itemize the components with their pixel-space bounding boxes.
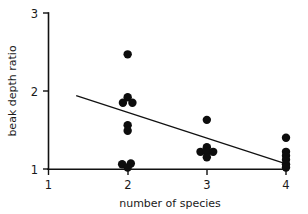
y-tick-label-2: 2 [31,85,38,99]
y-tick-labels: 3 2 1 [31,7,38,177]
data-point [119,99,127,107]
data-points-layer [118,50,290,172]
data-point [209,148,217,156]
x-axis-title: number of species [119,197,221,210]
data-point [282,134,290,142]
x-tick-label-4: 4 [282,178,289,192]
data-point [203,116,211,124]
y-tick-label-3: 3 [31,7,38,21]
x-tick-label-3: 3 [203,178,210,192]
data-point [123,50,131,58]
x-axis [48,169,286,175]
regression-trend-line [76,96,290,165]
plot-canvas: 3 2 1 1 2 3 4 number of species beak dep… [0,0,308,214]
data-point [123,127,131,135]
x-tick-label-1: 1 [45,178,52,192]
y-axis [43,13,49,169]
y-tick-label-1: 1 [31,163,38,177]
x-tick-label-2: 2 [124,178,131,192]
x-tick-labels: 1 2 3 4 [45,178,290,192]
scatter-plot-figure: 3 2 1 1 2 3 4 number of species beak dep… [0,0,308,214]
data-point [282,163,290,171]
data-point [203,153,211,161]
data-point [128,99,136,107]
y-axis-title: beak depth ratio [6,45,19,137]
data-point [123,163,131,171]
